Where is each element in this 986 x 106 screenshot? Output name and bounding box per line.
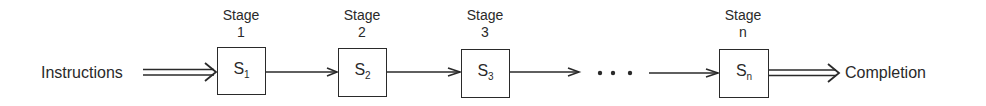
- stage-title: Stage: [445, 8, 525, 23]
- stage-title: Stage: [201, 8, 281, 23]
- input-label: Instructions: [41, 64, 123, 82]
- stage-symbol: S1: [218, 60, 265, 80]
- arrow-s2-s3: [387, 68, 460, 76]
- stage-index: 3: [445, 25, 525, 40]
- arrow-ellipsis-sn: [649, 69, 718, 77]
- stage-index: n: [703, 25, 783, 40]
- stage-title: Stage: [322, 8, 402, 23]
- output-label: Completion: [845, 64, 926, 82]
- arrow-s3-ellipsis: [510, 68, 579, 76]
- arrow-s1-s2: [266, 68, 337, 76]
- stage-box: S3: [461, 49, 510, 98]
- stage-box: S1: [217, 47, 266, 95]
- stage-symbol: S3: [462, 62, 509, 82]
- input-double-arrow: [143, 63, 216, 81]
- stage-box: S2: [338, 48, 387, 97]
- ellipsis-dots: [598, 71, 632, 75]
- stage-symbol: S2: [339, 61, 386, 81]
- output-double-arrow: [769, 64, 839, 82]
- stage-box: Sn: [719, 49, 769, 98]
- stage-symbol: Sn: [720, 62, 768, 82]
- stage-title: Stage: [703, 8, 783, 23]
- stage-index: 2: [322, 25, 402, 40]
- stage-index: 1: [201, 25, 281, 40]
